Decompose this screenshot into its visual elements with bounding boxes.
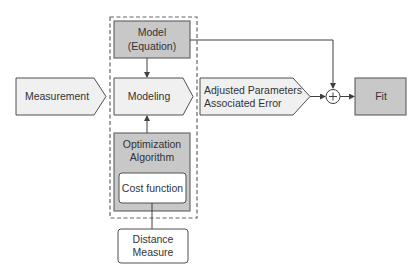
adjusted-parameters-node: Adjusted Parameters Associated Error xyxy=(200,78,310,115)
modeling-node: Modeling xyxy=(114,78,193,115)
measurement-node: Measurement xyxy=(16,78,106,115)
cost-function-label: Cost function xyxy=(122,182,183,194)
adjusted-label-line1: Adjusted Parameters xyxy=(204,84,302,96)
optimization-label-line2: Algorithm xyxy=(130,151,175,163)
cost-function-node: Cost function xyxy=(119,173,186,203)
workflow-diagram: Model (Equation) Measurement Modeling Ad… xyxy=(0,0,418,275)
model-label-line2: (Equation) xyxy=(128,40,176,52)
model-node: Model (Equation) xyxy=(114,21,190,58)
measurement-label: Measurement xyxy=(25,90,89,102)
modeling-label: Modeling xyxy=(128,90,171,102)
distance-label-line2: Measure xyxy=(133,246,174,258)
fit-node: Fit xyxy=(355,78,406,115)
optimization-label-line1: Optimization xyxy=(123,138,182,150)
fit-label: Fit xyxy=(375,90,387,102)
distance-label-line1: Distance xyxy=(133,233,174,245)
distance-measure-node: Distance Measure xyxy=(118,229,188,263)
model-label-line1: Model xyxy=(138,26,167,38)
adjusted-label-line2: Associated Error xyxy=(204,97,282,109)
sum-junction xyxy=(326,90,340,104)
